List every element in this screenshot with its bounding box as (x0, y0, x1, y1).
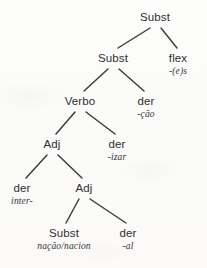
edge-verbo-to-der-izar (86, 112, 115, 134)
edge-verbo-to-adj (56, 112, 75, 134)
tree-edge-layer (0, 0, 207, 268)
node-adj-level5: Adj (76, 183, 93, 195)
node-der-cao-morpheme: -ção (137, 110, 154, 120)
edge-subst-to-der-cao (119, 69, 144, 91)
node-flex-es-morpheme: -(e)s (169, 67, 187, 77)
node-root-subst-category: Subst (140, 12, 170, 24)
node-der-cao: der-ção (137, 96, 154, 120)
node-subst-level2-category: Subst (98, 53, 128, 65)
node-adj-level4-category: Adj (44, 139, 61, 151)
node-flex-es-category: flex (169, 53, 187, 65)
node-der-al: der-al (120, 228, 137, 252)
node-subst-nacao-morpheme: nação/nacion (37, 242, 91, 252)
node-adj-level4: Adj (44, 139, 61, 151)
node-der-cao-category: der (137, 96, 154, 108)
node-der-al-category: der (120, 228, 137, 240)
edge-adj-to-der-al (90, 199, 126, 223)
node-flex-es: flex-(e)s (169, 53, 187, 77)
node-der-izar-category: der (108, 139, 127, 151)
node-der-inter: derinter- (11, 183, 33, 207)
node-der-izar: der-izar (108, 139, 127, 163)
edge-adj-to-adj (58, 155, 82, 178)
node-der-izar-morpheme: -izar (108, 153, 127, 163)
edge-subst-to-verbo (84, 69, 108, 91)
edge-adj-to-der-inter (26, 155, 47, 178)
node-verbo: Verbo (65, 96, 96, 108)
node-verbo-category: Verbo (65, 96, 96, 108)
derivation-tree-figure: SubstSubstflex-(e)sVerboder-çãoAdjder-iz… (0, 0, 207, 268)
node-der-inter-morpheme: inter- (11, 197, 33, 207)
edge-adj-to-subst-nacao (66, 199, 79, 223)
node-root-subst: Subst (140, 12, 170, 24)
edge-root-to-subst (118, 28, 150, 48)
node-subst-nacao-category: Subst (37, 228, 91, 240)
node-adj-level5-category: Adj (76, 183, 93, 195)
node-der-al-morpheme: -al (120, 242, 137, 252)
node-der-inter-category: der (11, 183, 33, 195)
node-subst-nacao: Substnação/nacion (37, 228, 91, 252)
node-subst-level2: Subst (98, 53, 128, 65)
edge-root-to-flex (161, 28, 177, 48)
